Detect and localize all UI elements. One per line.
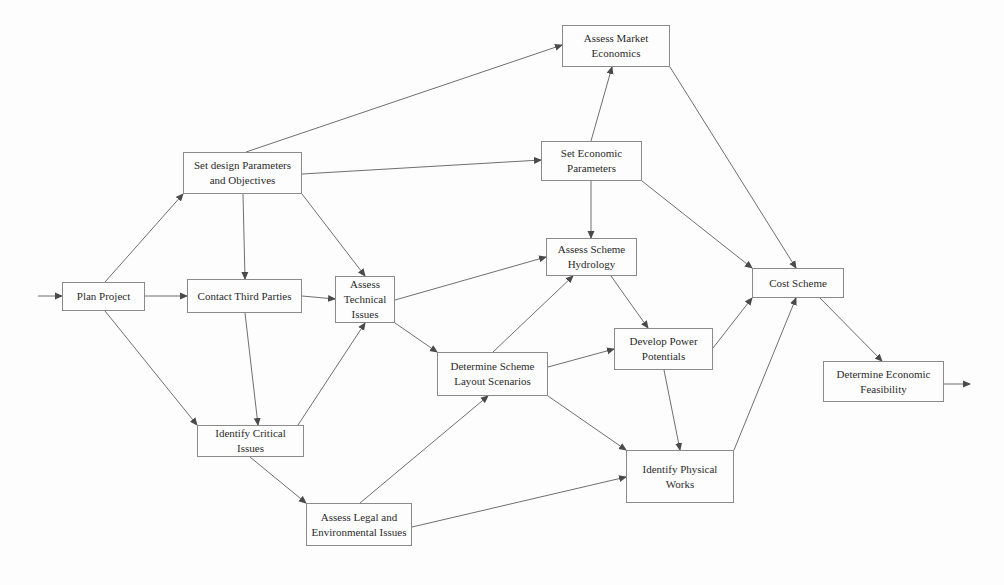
arrow-set_design_parameters-to-assess_technical_issues xyxy=(302,194,365,276)
arrow-assess_technical_issues-to-assess_scheme_hydrology xyxy=(395,257,546,300)
node-label: Identify Critical Issues xyxy=(202,426,299,456)
arrow-develop_power_potentials-to-identify_physical_works xyxy=(664,370,680,450)
node-set-design-parameters: Set design Parameters and Objectives xyxy=(183,152,302,194)
arrow-set_economic_parameters-to-assess_market_economics xyxy=(591,67,612,141)
arrow-develop_power_potentials-to-cost_scheme xyxy=(713,298,752,348)
node-label: Set Economic Parameters xyxy=(546,146,637,176)
node-label: Determine Economic Feasibility xyxy=(828,367,939,397)
node-label: Assess Technical Issues xyxy=(340,277,390,322)
node-label: Determine Scheme Layout Scenarios xyxy=(442,359,543,389)
arrow-determine_layout_scenarios-to-assess_scheme_hydrology xyxy=(493,276,573,352)
arrow-set_economic_parameters-to-cost_scheme xyxy=(642,181,752,268)
node-label: Cost Scheme xyxy=(769,276,827,291)
arrow-set_design_parameters-to-assess_market_economics xyxy=(246,45,562,152)
node-cost-scheme: Cost Scheme xyxy=(752,268,844,298)
arrow-contact_third_parties-to-assess_technical_issues xyxy=(302,296,335,299)
node-determine-economic-feasibility: Determine Economic Feasibility xyxy=(823,361,944,402)
arrow-determine_layout_scenarios-to-develop_power_potentials xyxy=(548,349,614,367)
arrow-assess_technical_issues-to-determine_layout_scenarios xyxy=(395,323,437,352)
arrow-contact_third_parties-to-identify_critical_issues xyxy=(245,313,258,425)
arrow-identify_critical_issues-to-assess_technical_issues xyxy=(298,323,365,425)
node-determine-layout-scenarios: Determine Scheme Layout Scenarios xyxy=(437,352,548,396)
arrow-assess_legal_environmental-to-identify_physical_works xyxy=(412,477,626,527)
node-set-economic-parameters: Set Economic Parameters xyxy=(541,141,642,181)
arrow-cost_scheme-to-determine_economic_feasibility xyxy=(820,298,882,361)
node-label: Develop Power Potentials xyxy=(619,334,708,364)
arrow-plan_project-to-identify_critical_issues xyxy=(105,311,197,425)
arrow-identify_physical_works-to-cost_scheme xyxy=(734,298,796,450)
arrow-assess_legal_environmental-to-determine_layout_scenarios xyxy=(360,396,488,503)
node-assess-scheme-hydrology: Assess Scheme Hydrology xyxy=(546,238,637,276)
node-develop-power-potentials: Develop Power Potentials xyxy=(614,328,713,370)
arrow-determine_layout_scenarios-to-identify_physical_works xyxy=(548,396,626,450)
node-label: Contact Third Parties xyxy=(198,289,292,304)
arrow-identify_critical_issues-to-assess_legal_environmental xyxy=(250,457,306,503)
node-identify-critical-issues: Identify Critical Issues xyxy=(197,425,304,457)
arrow-set_design_parameters-to-contact_third_parties xyxy=(243,194,245,279)
node-label: Identify Physical Works xyxy=(631,462,729,492)
edge-layer xyxy=(0,0,1004,585)
node-label: Assess Legal and Environmental Issues xyxy=(311,510,407,540)
node-assess-technical-issues: Assess Technical Issues xyxy=(335,276,395,323)
node-plan-project: Plan Project xyxy=(62,282,145,311)
node-label: Assess Scheme Hydrology xyxy=(551,242,632,272)
node-assess-market-economics: Assess Market Economics xyxy=(562,25,670,67)
node-label: Plan Project xyxy=(77,289,130,304)
arrow-assess_market_economics-to-cost_scheme xyxy=(670,67,796,268)
node-contact-third-parties: Contact Third Parties xyxy=(187,279,302,313)
node-identify-physical-works: Identify Physical Works xyxy=(626,450,734,503)
arrow-set_design_parameters-to-set_economic_parameters xyxy=(302,160,541,174)
arrow-assess_scheme_hydrology-to-develop_power_potentials xyxy=(611,276,648,328)
node-label: Assess Market Economics xyxy=(567,31,665,61)
arrow-plan_project-to-set_design_parameters xyxy=(105,194,183,282)
node-label: Set design Parameters and Objectives xyxy=(188,158,297,188)
flow-diagram: Plan ProjectContact Third PartiesSet des… xyxy=(0,0,1004,585)
node-assess-legal-environmental: Assess Legal and Environmental Issues xyxy=(306,503,412,546)
